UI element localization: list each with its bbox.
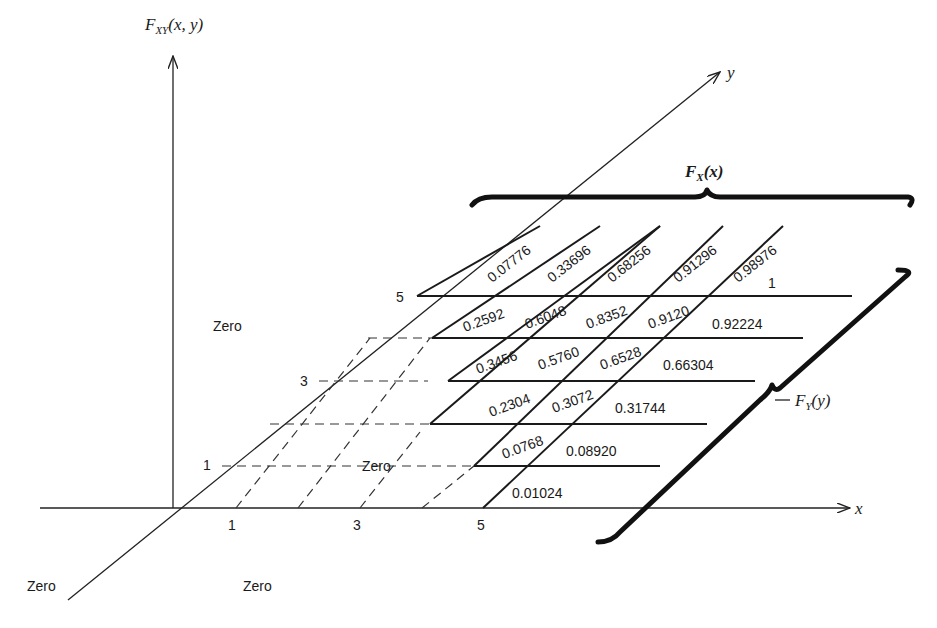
joint-cdf-diagram: FXY(x, y) FX(x) FY(y) x y 1 3 5 1 3 5 Ze… [0, 0, 937, 628]
cell-values: 0.01024 0.08920 0.31744 0.66304 0.92224 … [461, 241, 780, 501]
cell-value: 1 [768, 275, 776, 291]
zero-label-bottom-left: Zero [27, 578, 56, 594]
cell-value: 0.6048 [523, 302, 569, 332]
diagram-svg: FXY(x, y) FX(x) FY(y) x y 1 3 5 1 3 5 Ze… [0, 0, 937, 628]
cell-value: 0.0768 [500, 432, 546, 462]
fx-label: FX(x) [684, 162, 724, 183]
zero-label-bottom-mid: Zero [243, 578, 272, 594]
fx-brace [472, 190, 912, 205]
cell-value: 0.66304 [663, 357, 714, 373]
cell-value: 0.01024 [512, 485, 563, 501]
cell-value: 0.8352 [584, 302, 630, 332]
cell-value: 0.91296 [670, 241, 720, 285]
cell-value: 0.31744 [615, 400, 666, 416]
cell-value: 0.2592 [461, 305, 507, 335]
x-axis-label: x [854, 499, 863, 518]
zero-label-center: Zero [362, 458, 391, 474]
y-axis [68, 72, 720, 600]
y-axis-label: y [725, 63, 735, 82]
fxy-label: FXY(x, y) [144, 15, 203, 36]
xtick-3: 3 [353, 517, 361, 533]
cell-value: 0.08920 [566, 443, 617, 459]
ytick-3: 3 [300, 373, 308, 389]
cell-value: 0.3456 [474, 347, 520, 377]
ytick-1: 1 [203, 457, 211, 473]
xtick-1: 1 [228, 517, 236, 533]
cell-value: 0.9120 [646, 302, 692, 332]
fy-label: FY(y) [794, 391, 831, 412]
cell-value: 0.07776 [484, 241, 534, 285]
cell-value: 0.3072 [550, 386, 596, 416]
ytick-5: 5 [396, 289, 404, 305]
cell-value: 0.6528 [598, 343, 644, 373]
cell-value: 0.92224 [712, 316, 763, 332]
xtick-5: 5 [477, 517, 485, 533]
zero-label-upper-left: Zero [213, 318, 242, 334]
